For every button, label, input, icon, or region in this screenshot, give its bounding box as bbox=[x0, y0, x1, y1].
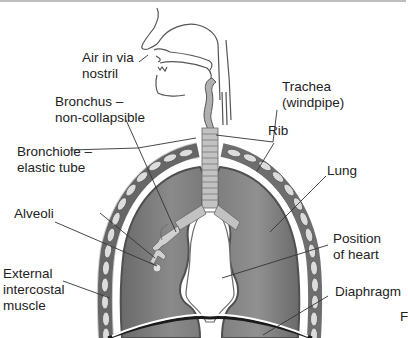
label-external-intercostal-muscle: External intercostal muscle bbox=[3, 266, 65, 314]
label-trachea: Trachea (windpipe) bbox=[282, 79, 344, 111]
pharynx bbox=[204, 78, 216, 130]
label-edge-fragment: F bbox=[400, 309, 408, 325]
head-profile bbox=[142, 8, 231, 125]
label-lung: Lung bbox=[327, 163, 357, 179]
label-air-in-via-nostril: Air in via nostril bbox=[82, 50, 134, 82]
trachea bbox=[202, 128, 218, 208]
label-bronchus: Bronchus – non-collapsible bbox=[55, 94, 145, 126]
label-alveoli: Alveoli bbox=[14, 206, 54, 222]
label-bronchiole: Bronchiole – elastic tube bbox=[17, 144, 92, 176]
label-diaphragm: Diaphragm bbox=[335, 284, 401, 300]
label-position-of-heart: Position of heart bbox=[333, 231, 381, 263]
label-rib: Rib bbox=[268, 123, 288, 139]
heart-space bbox=[186, 212, 234, 322]
